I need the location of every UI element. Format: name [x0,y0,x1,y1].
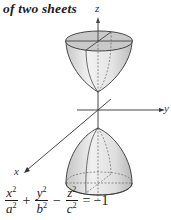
exponent: 2 [43,201,47,210]
upper-sheet [66,31,133,92]
fraction-x: x2 a2 [5,186,18,216]
fraction-y: y2 b2 [35,186,48,216]
exponent: 2 [73,201,77,210]
fraction-z: z2 c2 [66,186,78,216]
right-hand-side: −1 [94,193,109,209]
x-axis-label: x [14,165,19,177]
exponent: 2 [12,185,16,194]
y-axis-label: y [164,102,169,114]
plus-operator: + [23,193,31,209]
hyperboloid-equation: x2 a2 + y2 b2 − z2 c2 = −1 [3,186,111,216]
exponent: 2 [72,185,76,194]
equals-sign: = [83,193,91,209]
exponent: 2 [43,185,47,194]
y-axis [77,108,165,112]
z-axis-label: z [95,2,99,14]
z-arrow-icon [96,17,100,23]
minus-operator: − [53,193,61,209]
exponent: 2 [13,201,17,210]
